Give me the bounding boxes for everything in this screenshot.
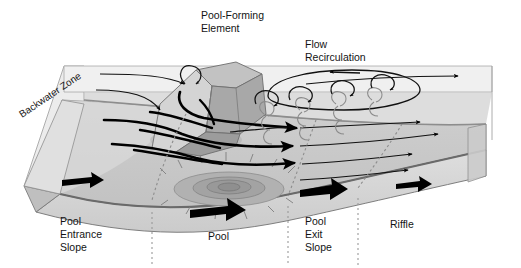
label-flow-recirculation: Flow Recirculation (305, 38, 366, 63)
stream-pool-riffle-diagram: Pool-Forming Element Flow Recirculation … (0, 0, 521, 268)
label-pool-forming-element: Pool-Forming Element (201, 9, 264, 34)
label-pool-forming-element-line2: Element (201, 22, 240, 34)
label-pool-exit-slope-line3: Slope (305, 241, 332, 253)
water-surface-plane (64, 66, 492, 92)
label-pool-entrance-slope-line2: Entrance (60, 228, 102, 240)
label-pool-exit-slope-line2: Exit (305, 228, 323, 240)
label-pool-entrance-slope-line3: Slope (60, 241, 87, 253)
label-flow-recirculation-line1: Flow (305, 38, 328, 50)
pool-ring-1 (218, 183, 240, 191)
label-riffle-text: Riffle (390, 218, 414, 230)
label-pool-exit-slope-line1: Pool (305, 215, 326, 227)
diagram-canvas: Pool-Forming Element Flow Recirculation … (0, 0, 521, 268)
label-pool-forming-element-line1: Pool-Forming (201, 9, 264, 21)
label-pool-exit-slope: Pool Exit Slope (305, 215, 332, 253)
label-pool-entrance-slope-line1: Pool (60, 215, 81, 227)
label-pool: Pool (208, 230, 229, 242)
label-flow-recirculation-line2: Recirculation (305, 51, 366, 63)
label-pool-text: Pool (208, 230, 229, 242)
bed-right-end-face (468, 124, 486, 182)
label-riffle: Riffle (390, 218, 414, 230)
